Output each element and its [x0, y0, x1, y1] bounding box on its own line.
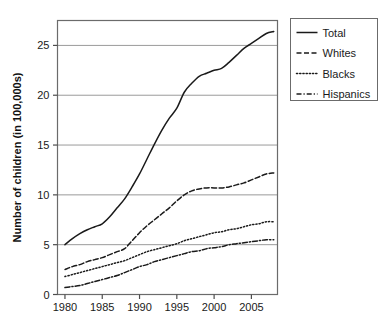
- series-line-blacks: [65, 222, 274, 277]
- x-tick-label-1985: 1985: [90, 301, 114, 313]
- x-tick-label-1990: 1990: [127, 301, 151, 313]
- legend-label-hispanics: Hispanics: [323, 88, 371, 100]
- plot-area-border: [58, 21, 278, 295]
- y-tick-label-15: 15: [37, 139, 49, 151]
- y-axis-title-group: Number of children (in 100,000s): [11, 72, 23, 242]
- series-line-whites: [65, 173, 274, 270]
- series-line-hispanics: [65, 240, 274, 288]
- line-chart: 198019851990199520002005 0510152025 Numb…: [0, 0, 382, 331]
- y-axis-title: Number of children (in 100,000s): [11, 72, 23, 242]
- gridlines: [58, 45, 278, 244]
- series-line-total: [65, 31, 274, 244]
- x-axis-ticks: 198019851990199520002005: [53, 295, 264, 313]
- y-tick-label-10: 10: [37, 189, 49, 201]
- x-tick-label-2005: 2005: [239, 301, 263, 313]
- series-lines: [65, 31, 274, 287]
- x-tick-label-1980: 1980: [53, 301, 77, 313]
- y-tick-label-5: 5: [43, 239, 49, 251]
- y-tick-label-25: 25: [37, 39, 49, 51]
- legend-label-whites: Whites: [323, 47, 357, 59]
- y-tick-label-0: 0: [43, 289, 49, 301]
- x-tick-label-1995: 1995: [165, 301, 189, 313]
- legend-label-total: Total: [323, 27, 346, 39]
- chart-legend: TotalWhitesBlacksHispanics: [291, 19, 378, 101]
- y-axis-ticks: 0510152025: [37, 39, 57, 300]
- chart-page: 198019851990199520002005 0510152025 Numb…: [0, 0, 382, 331]
- x-tick-label-2000: 2000: [202, 301, 226, 313]
- y-tick-label-20: 20: [37, 89, 49, 101]
- legend-label-blacks: Blacks: [323, 68, 356, 80]
